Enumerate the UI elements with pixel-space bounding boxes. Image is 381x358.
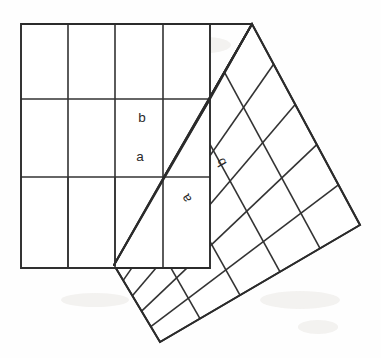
label-a-upright: a bbox=[136, 149, 144, 164]
label-b-upright: b bbox=[138, 110, 146, 125]
diagram-canvas: b a b a bbox=[0, 0, 381, 358]
pythagorean-figure: b a b a bbox=[0, 0, 381, 358]
